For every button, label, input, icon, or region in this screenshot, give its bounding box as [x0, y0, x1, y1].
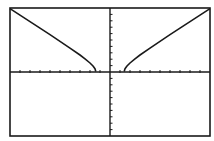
curve-left-branch [10, 9, 96, 72]
calculator-graph-screen [0, 0, 214, 141]
curve-right-branch [124, 9, 210, 72]
graph-plot [0, 0, 214, 141]
